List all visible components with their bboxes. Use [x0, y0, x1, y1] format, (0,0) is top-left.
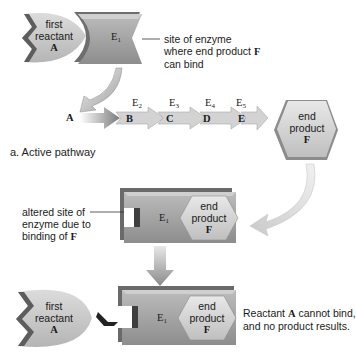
enzyme-sub: 3: [175, 102, 179, 110]
top-enzyme-label: E1: [104, 31, 128, 46]
blocked-binding-icon: [96, 312, 118, 326]
bottom-enzyme-label: E1: [150, 312, 174, 327]
product-line2: product: [182, 312, 232, 324]
middle-enzyme-label: E1: [152, 212, 176, 227]
product-line2: product: [184, 212, 234, 224]
caption-active-pathway: a. Active pathway: [10, 146, 96, 158]
product-letter: F: [182, 324, 232, 336]
annotation-line3: binding of F: [22, 230, 91, 243]
pathway-enzyme-e2: E2: [132, 97, 142, 112]
middle-annotation: altered site of enzyme due to binding of…: [22, 206, 91, 243]
enzyme-sub: 1: [163, 317, 167, 325]
pathway-product-b: B: [126, 113, 133, 125]
bottom-result-text: Reactant A cannot bind, and no product r…: [243, 307, 356, 332]
enzyme-sub: 1: [117, 36, 121, 44]
enzyme-sub: 2: [138, 102, 142, 110]
annotation-letter: F: [70, 231, 76, 242]
down-arrow: [146, 246, 174, 286]
enzyme-sub: 5: [242, 102, 246, 110]
curved-arrow-feedback: [250, 164, 315, 236]
product-line1: end: [184, 200, 234, 212]
result-line1-a: Reactant: [243, 307, 288, 319]
pathway-enzyme-e3: E3: [169, 97, 179, 112]
annotation-line3: can bind: [164, 58, 260, 70]
reactant-line1: first: [28, 18, 80, 30]
pathway-product-e: E: [238, 113, 245, 125]
middle-end-product-label: end product F: [184, 200, 234, 236]
reactant-letter: A: [26, 324, 82, 336]
result-letter: A: [288, 308, 296, 319]
product-line1: end: [280, 110, 334, 122]
annotation-line2-text: where end product: [164, 45, 251, 57]
enzyme-sub: 4: [211, 102, 215, 110]
annotation-letter: F: [254, 46, 260, 57]
pathway-enzyme-e5: E5: [236, 97, 246, 112]
result-line2: and no product results.: [243, 320, 356, 332]
pathway-start-a: A: [66, 112, 74, 124]
annotation-line2: enzyme due to: [22, 218, 91, 230]
pathway-product-c: C: [166, 113, 174, 125]
bottom-end-product-label: end product F: [182, 300, 232, 336]
top-annotation: site of enzyme where end product F can b…: [164, 33, 260, 70]
reactant-line2: reactant: [26, 312, 82, 324]
reactant-letter: A: [28, 42, 80, 54]
annotation-line2: where end product F: [164, 45, 260, 58]
bottom-reactant-label: first reactant A: [26, 300, 82, 336]
product-line1: end: [182, 300, 232, 312]
product-line2: product: [280, 122, 334, 134]
annotation-line1: site of enzyme: [164, 33, 260, 45]
result-line1: Reactant A cannot bind,: [243, 307, 356, 320]
product-letter: F: [184, 224, 234, 236]
annotation-line3-text: binding of: [22, 230, 68, 242]
end-product-f-label-top: end product F: [280, 110, 334, 146]
result-line1-b: cannot bind,: [296, 307, 356, 319]
annotation-line1: altered site of: [22, 206, 91, 218]
pathway-enzyme-e4: E4: [205, 97, 215, 112]
enzyme-sub: 1: [165, 217, 169, 225]
top-reactant-label: first reactant A: [28, 18, 80, 54]
reactant-line2: reactant: [28, 30, 80, 42]
curved-arrow-top: [80, 68, 122, 112]
pathway-product-d: D: [203, 113, 211, 125]
reactant-line1: first: [26, 300, 82, 312]
product-letter: F: [280, 134, 334, 146]
